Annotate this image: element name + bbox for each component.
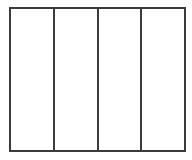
panel-group <box>11 9 184 150</box>
diagram-canvas <box>0 0 192 160</box>
panel-1[interactable] <box>11 9 53 150</box>
panel-frame <box>9 7 186 152</box>
panel-4[interactable] <box>140 9 184 150</box>
panel-2[interactable] <box>53 9 97 150</box>
panel-3[interactable] <box>97 9 141 150</box>
